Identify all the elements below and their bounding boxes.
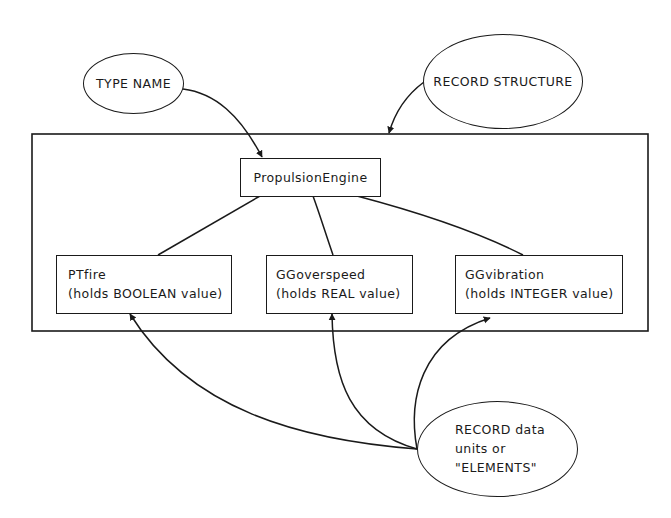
element-name: PTfire: [68, 265, 106, 284]
record-type-name: PropulsionEngine: [254, 168, 368, 187]
connector-ggvibration: [357, 196, 523, 255]
connector-ggoverspeed: [313, 196, 333, 255]
elements-label-line2: units or: [455, 439, 506, 458]
record-structure-arrow: [389, 82, 424, 133]
type-name-label: TYPE NAME: [96, 74, 171, 93]
element-box-ggoverspeed: GGoverspeed (holds REAL value): [266, 255, 413, 314]
record-structure-label: RECORD STRUCTURE: [433, 72, 572, 91]
element-description: (holds BOOLEAN value): [68, 284, 223, 303]
elements-arrow-ggoverspeed: [332, 314, 417, 449]
element-box-ptfire: PTfire (holds BOOLEAN value): [56, 255, 232, 314]
type-name-arrow: [183, 89, 262, 157]
record-structure-callout: RECORD STRUCTURE: [423, 34, 583, 129]
connector-ptfire: [158, 196, 260, 255]
record-type-box: PropulsionEngine: [240, 158, 381, 197]
element-box-ggvibration: GGvibration (holds INTEGER value): [455, 255, 623, 314]
type-name-callout: TYPE NAME: [83, 53, 184, 114]
elements-label-line3: "ELEMENTS": [455, 458, 537, 477]
element-name: GGvibration: [465, 265, 544, 284]
diagram-canvas: TYPE NAME RECORD STRUCTURE PropulsionEng…: [0, 0, 671, 518]
element-name: GGoverspeed: [276, 265, 365, 284]
elements-callout: RECORD data units or "ELEMENTS": [417, 401, 578, 497]
elements-label-line1: RECORD data: [455, 420, 545, 439]
element-description: (holds INTEGER value): [465, 284, 614, 303]
element-description: (holds REAL value): [276, 284, 401, 303]
